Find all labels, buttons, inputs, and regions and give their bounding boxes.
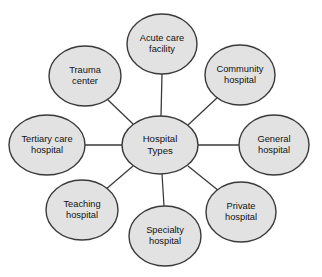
node-label-private-hospital: Privatehospital xyxy=(225,201,257,222)
node-label-line1-general-hospital: General xyxy=(257,134,290,144)
node-label-line1-community-hospital: Community xyxy=(216,64,263,74)
node-label-trauma-center: Traumacenter xyxy=(69,65,102,86)
node-label-line2-teaching-hospital: hospital xyxy=(66,210,98,220)
node-label-line1-hospital-types: Hospital xyxy=(143,133,178,144)
node-specialty-hospital[interactable]: Specialtyhospital xyxy=(129,206,201,266)
connector-center-to-community-hospital xyxy=(188,97,218,125)
diagram-canvas: Acute carefacilityCommunityhospitalGener… xyxy=(0,0,322,277)
node-general-hospital[interactable]: Generalhospital xyxy=(239,115,309,175)
node-tertiary-care-hospital[interactable]: Tertiary carehospital xyxy=(9,115,85,175)
node-label-line1-acute-care-facility: Acute care xyxy=(140,33,184,43)
node-label-line2-acute-care-facility: facility xyxy=(149,44,175,54)
connector-center-to-trauma-center xyxy=(107,99,133,124)
connector-center-to-specialty-hospital xyxy=(162,174,164,206)
node-label-line2-trauma-center: center xyxy=(72,76,98,86)
node-label-line2-general-hospital: hospital xyxy=(258,145,290,155)
node-label-line1-specialty-hospital: Specialty xyxy=(146,225,184,235)
node-label-specialty-hospital: Specialtyhospital xyxy=(146,225,184,246)
center-node-group: HospitalTypes xyxy=(122,116,198,174)
connector-center-to-acute-care-facility xyxy=(161,74,162,116)
node-label-line2-community-hospital: hospital xyxy=(224,75,256,85)
node-label-general-hospital: Generalhospital xyxy=(257,134,290,155)
node-hospital-types[interactable]: HospitalTypes xyxy=(122,116,198,174)
node-label-hospital-types: HospitalTypes xyxy=(143,133,178,155)
connector-center-to-private-hospital xyxy=(188,166,219,191)
node-private-hospital[interactable]: Privatehospital xyxy=(206,182,276,242)
hospital-types-radial-diagram: Acute carefacilityCommunityhospitalGener… xyxy=(0,0,322,277)
node-label-line1-trauma-center: Trauma xyxy=(69,65,102,75)
node-label-line1-private-hospital: Private xyxy=(227,201,256,211)
node-label-line2-tertiary-care-hospital: hospital xyxy=(31,145,63,155)
node-label-line2-hospital-types: Types xyxy=(147,144,173,155)
node-community-hospital[interactable]: Communityhospital xyxy=(205,45,275,105)
node-teaching-hospital[interactable]: Teachinghospital xyxy=(46,180,118,240)
node-label-line2-specialty-hospital: hospital xyxy=(149,236,181,246)
node-acute-care-facility[interactable]: Acute carefacility xyxy=(127,14,197,74)
node-label-line1-tertiary-care-hospital: Tertiary care xyxy=(21,134,72,144)
connector-center-to-teaching-hospital xyxy=(105,166,133,190)
node-label-line1-teaching-hospital: Teaching xyxy=(63,199,100,209)
node-label-teaching-hospital: Teachinghospital xyxy=(63,199,100,220)
node-label-line2-private-hospital: hospital xyxy=(225,212,257,222)
node-trauma-center[interactable]: Traumacenter xyxy=(49,46,121,106)
